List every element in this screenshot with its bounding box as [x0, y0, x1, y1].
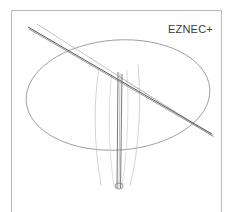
- radial-wire-left: [95, 68, 101, 185]
- radial-wire-left-inner: [109, 72, 114, 186]
- mast-center-line: [119, 73, 120, 188]
- vertical-mast-group: [117, 72, 122, 188]
- radial-wire-right: [130, 64, 139, 186]
- mast-right-edge: [121, 74, 123, 188]
- eznec-plot-window: EZNEC+: [0, 0, 233, 212]
- radial-wire-right-inner: [122, 70, 128, 186]
- mast-left-edge: [117, 72, 118, 188]
- app-name-label: EZNEC+: [168, 23, 213, 36]
